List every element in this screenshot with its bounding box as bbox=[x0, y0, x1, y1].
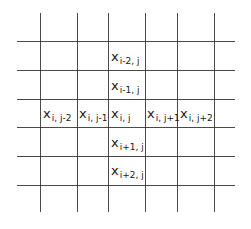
cell-subscript: i+1, j bbox=[120, 142, 144, 152]
cell-base: x bbox=[111, 163, 119, 178]
grid-vline-1 bbox=[40, 13, 41, 212]
grid-vline-6 bbox=[214, 13, 215, 212]
cell-base: x bbox=[43, 106, 51, 121]
grid-vline-4 bbox=[145, 13, 146, 212]
grid-vline-3 bbox=[108, 13, 109, 212]
stencil-grid-diagram: xi-2, j xi-1, j xi, j-2 xi, j-1 xi, j xi… bbox=[0, 0, 251, 229]
cell-subscript: i, j bbox=[120, 113, 131, 123]
cell-base: x bbox=[111, 49, 119, 64]
cell-base: x bbox=[79, 106, 87, 121]
cell-x-i-plus1-j: xi+1, j bbox=[111, 136, 144, 149]
cell-x-i-plus2-j: xi+2, j bbox=[111, 164, 144, 177]
cell-subscript: i, j+2 bbox=[189, 113, 213, 123]
grid-hline-3 bbox=[17, 99, 235, 100]
cell-subscript: i, j-2 bbox=[52, 113, 72, 123]
grid-vline-2 bbox=[77, 13, 78, 212]
grid-hline-1 bbox=[17, 41, 235, 42]
cell-x-i-minus1-j: xi-1, j bbox=[111, 79, 139, 92]
grid-hline-4 bbox=[17, 127, 235, 128]
cell-subscript: i+2, j bbox=[120, 170, 144, 180]
grid-hline-5 bbox=[17, 156, 235, 157]
cell-base: x bbox=[111, 106, 119, 121]
cell-x-i-minus2-j: xi-2, j bbox=[111, 50, 139, 63]
cell-subscript: i-1, j bbox=[120, 85, 140, 95]
cell-base: x bbox=[111, 135, 119, 150]
cell-x-i-j-plus2: xi, j+2 bbox=[180, 107, 213, 120]
cell-subscript: i, j-1 bbox=[88, 113, 108, 123]
cell-x-i-j-minus2: xi, j-2 bbox=[43, 107, 71, 120]
cell-x-i-j: xi, j bbox=[111, 107, 130, 120]
grid-hline-6 bbox=[17, 185, 235, 186]
grid-hline-2 bbox=[17, 70, 235, 71]
cell-x-i-j-plus1: xi, j+1 bbox=[147, 107, 180, 120]
cell-x-i-j-minus1: xi, j-1 bbox=[79, 107, 107, 120]
cell-base: x bbox=[147, 106, 155, 121]
cell-subscript: i-2, j bbox=[120, 56, 140, 66]
cell-base: x bbox=[111, 78, 119, 93]
cell-subscript: i, j+1 bbox=[156, 113, 180, 123]
cell-base: x bbox=[180, 106, 188, 121]
